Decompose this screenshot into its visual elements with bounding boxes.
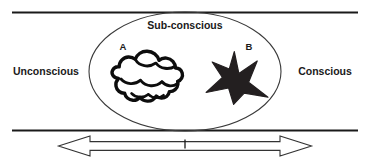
double-headed-arrow bbox=[59, 136, 312, 156]
star-shape-b bbox=[206, 52, 268, 105]
consciousness-diagram: A B Sub-conscious Unconscious Conscious bbox=[0, 0, 370, 164]
sub-conscious-label: Sub-conscious bbox=[147, 19, 222, 31]
cloud-shape-a bbox=[112, 51, 182, 101]
conscious-label: Conscious bbox=[298, 65, 352, 77]
star-polygon bbox=[206, 52, 268, 105]
unconscious-label: Unconscious bbox=[13, 65, 79, 77]
marker-label-a: A bbox=[120, 41, 127, 52]
diagram-canvas: A B Sub-conscious Unconscious Conscious bbox=[0, 0, 370, 164]
marker-label-b: B bbox=[246, 41, 253, 52]
